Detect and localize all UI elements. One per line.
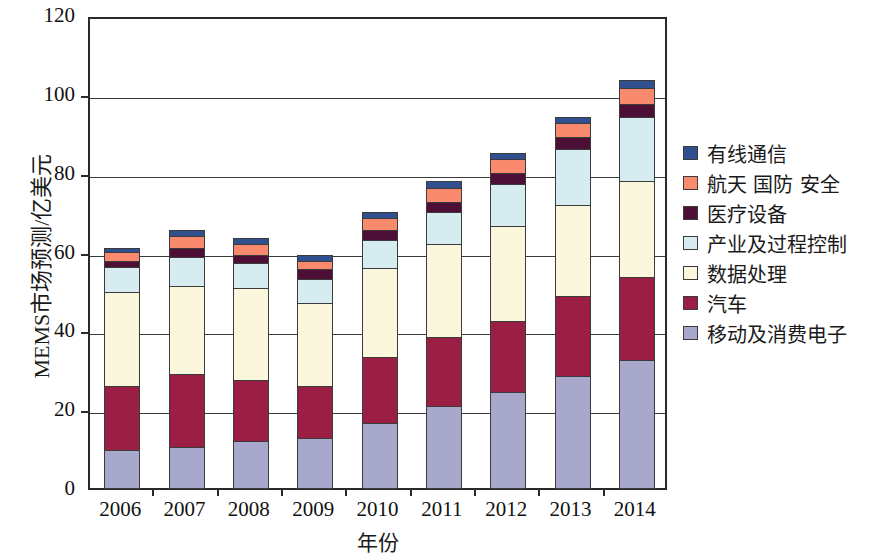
bar-2012[interactable]	[490, 15, 526, 488]
bar-segment[interactable]	[362, 212, 398, 219]
bar-2013[interactable]	[555, 15, 591, 488]
legend-item-5[interactable]: 汽车	[683, 288, 847, 318]
legend-label: 产业及过程控制	[707, 229, 847, 258]
bar-segment[interactable]	[233, 238, 269, 245]
bar-segment[interactable]	[555, 117, 591, 124]
legend-swatch-icon	[683, 296, 698, 310]
bar-segment[interactable]	[362, 423, 398, 489]
bar-segment[interactable]	[104, 261, 140, 268]
legend-item-3[interactable]: 产业及过程控制	[683, 228, 847, 258]
legend-label: 移动及消费电子	[707, 319, 847, 348]
bar-2010[interactable]	[362, 15, 398, 488]
bar-segment[interactable]	[619, 104, 655, 119]
bar-segment[interactable]	[426, 244, 462, 338]
bar-segment[interactable]	[104, 450, 140, 489]
bar-segment[interactable]	[555, 296, 591, 376]
bar-segment[interactable]	[426, 202, 462, 213]
bar-2009[interactable]	[297, 15, 333, 488]
bar-segment[interactable]	[490, 392, 526, 489]
bar-segment[interactable]	[426, 406, 462, 489]
bar-segment[interactable]	[555, 149, 591, 206]
legend-swatch-icon	[683, 326, 698, 340]
bar-segment[interactable]	[169, 248, 205, 259]
bar-segment[interactable]	[426, 181, 462, 190]
y-tick-mark-80	[81, 175, 88, 177]
bar-segment[interactable]	[169, 447, 205, 489]
bar-segment[interactable]	[490, 159, 526, 174]
bar-segment[interactable]	[297, 438, 333, 489]
bar-segment[interactable]	[490, 226, 526, 322]
bar-segment[interactable]	[490, 184, 526, 227]
bar-segment[interactable]	[233, 263, 269, 289]
legend-item-6[interactable]: 移动及消费电子	[683, 318, 847, 348]
bar-segment[interactable]	[104, 386, 140, 452]
bar-segment[interactable]	[490, 321, 526, 393]
bar-2008[interactable]	[233, 15, 269, 488]
bar-segment[interactable]	[297, 269, 333, 280]
bar-segment[interactable]	[555, 205, 591, 297]
bar-2011[interactable]	[426, 15, 462, 488]
bar-segment[interactable]	[233, 288, 269, 380]
bar-segment[interactable]	[104, 292, 140, 387]
bar-segment[interactable]	[619, 277, 655, 361]
bar-segment[interactable]	[297, 255, 333, 262]
bar-segment[interactable]	[104, 252, 140, 262]
bar-segment[interactable]	[104, 267, 140, 292]
x-tick-mark-8	[603, 490, 605, 496]
bar-segment[interactable]	[619, 181, 655, 279]
y-tick-label-100: 100	[20, 82, 75, 107]
bar-segment[interactable]	[297, 303, 333, 387]
x-tick-mark-2	[217, 490, 219, 496]
bar-segment[interactable]	[362, 357, 398, 423]
bar-segment[interactable]	[169, 230, 205, 237]
bar-segment[interactable]	[169, 236, 205, 249]
bar-segment[interactable]	[426, 188, 462, 203]
y-tick-mark-20	[81, 411, 88, 413]
legend-swatch-icon	[683, 236, 698, 250]
bar-segment[interactable]	[362, 268, 398, 358]
bar-2014[interactable]	[619, 15, 655, 488]
bar-segment[interactable]	[169, 286, 205, 376]
y-tick-label-120: 120	[20, 3, 75, 28]
bar-segment[interactable]	[490, 173, 526, 186]
bar-segment[interactable]	[362, 230, 398, 241]
bar-segment[interactable]	[297, 279, 333, 304]
bar-2006[interactable]	[104, 15, 140, 488]
bar-segment[interactable]	[619, 88, 655, 105]
legend-item-4[interactable]: 数据处理	[683, 258, 847, 288]
bar-segment[interactable]	[169, 374, 205, 448]
bar-segment[interactable]	[555, 137, 591, 150]
legend-swatch-icon	[683, 206, 698, 220]
legend-item-0[interactable]: 有线通信	[683, 138, 847, 168]
bar-segment[interactable]	[426, 212, 462, 245]
bar-segment[interactable]	[362, 218, 398, 231]
legend-item-2[interactable]: 医疗设备	[683, 198, 847, 228]
y-tick-label-0: 0	[20, 476, 75, 501]
legend-swatch-icon	[683, 176, 698, 190]
bar-segment[interactable]	[362, 240, 398, 269]
bar-segment[interactable]	[490, 153, 526, 160]
bar-segment[interactable]	[619, 80, 655, 89]
mems-market-forecast-chart: MEMS市场预测/亿美元 020406080100120 20062007200…	[0, 0, 874, 557]
bar-segment[interactable]	[233, 255, 269, 264]
bar-segment[interactable]	[233, 380, 269, 443]
bar-segment[interactable]	[169, 257, 205, 286]
bar-segment[interactable]	[104, 248, 140, 253]
bar-segment[interactable]	[297, 386, 333, 439]
legend-item-1[interactable]: 航天 国防 安全	[683, 168, 847, 198]
x-tick-mark-7	[538, 490, 540, 496]
chart-legend: 有线通信航天 国防 安全医疗设备产业及过程控制数据处理汽车移动及消费电子	[683, 138, 847, 348]
bar-segment[interactable]	[619, 360, 655, 489]
bar-segment[interactable]	[426, 337, 462, 407]
bar-segment[interactable]	[297, 261, 333, 270]
bar-segment[interactable]	[555, 376, 591, 489]
bar-2007[interactable]	[169, 15, 205, 488]
y-tick-mark-100	[81, 96, 88, 98]
bar-segment[interactable]	[233, 244, 269, 257]
bar-segment[interactable]	[555, 123, 591, 138]
y-tick-label-40: 40	[20, 318, 75, 343]
bar-segment[interactable]	[619, 117, 655, 181]
legend-label: 有线通信	[707, 139, 787, 168]
x-tick-mark-1	[152, 490, 154, 496]
bar-segment[interactable]	[233, 441, 269, 489]
